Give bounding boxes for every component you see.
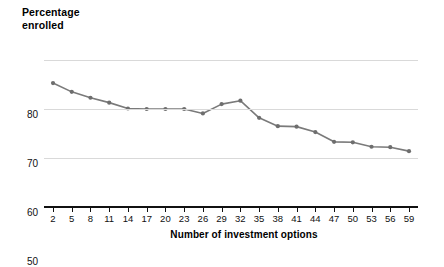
x-tick-17 (147, 208, 148, 212)
data-point (351, 140, 355, 144)
x-tick-50 (353, 208, 354, 212)
data-point (88, 96, 92, 100)
data-point-markers (51, 81, 411, 153)
gridline-70 (44, 109, 418, 110)
data-point (294, 125, 298, 129)
data-point (257, 116, 261, 120)
x-tick-56 (390, 208, 391, 212)
x-tick-32 (240, 208, 241, 212)
data-point (238, 99, 242, 103)
data-point (369, 145, 373, 149)
x-tick-8 (90, 208, 91, 212)
x-tick-44 (315, 208, 316, 212)
x-tick-35 (259, 208, 260, 212)
x-tick-label-59: 59 (397, 213, 421, 224)
x-tick-5 (72, 208, 73, 212)
data-point (220, 102, 224, 106)
data-point (276, 124, 280, 128)
x-tick-47 (334, 208, 335, 212)
x-tick-26 (203, 208, 204, 212)
gridline-60 (44, 158, 418, 159)
data-point (51, 81, 55, 85)
x-tick-38 (278, 208, 279, 212)
data-point (313, 130, 317, 134)
x-tick-11 (109, 208, 110, 212)
x-tick-23 (184, 208, 185, 212)
x-tick-20 (165, 208, 166, 212)
x-tick-53 (372, 208, 373, 212)
x-axis-title: Number of investment options (0, 229, 444, 240)
data-point (70, 90, 74, 94)
gridline-80 (44, 60, 418, 61)
data-point (407, 149, 411, 153)
data-point (107, 101, 111, 105)
x-tick-41 (297, 208, 298, 212)
data-point (332, 140, 336, 144)
x-tick-59 (409, 208, 410, 212)
data-point (388, 145, 392, 149)
data-point (201, 111, 205, 115)
x-tick-2 (53, 208, 54, 212)
x-tick-29 (222, 208, 223, 212)
x-tick-14 (128, 208, 129, 212)
